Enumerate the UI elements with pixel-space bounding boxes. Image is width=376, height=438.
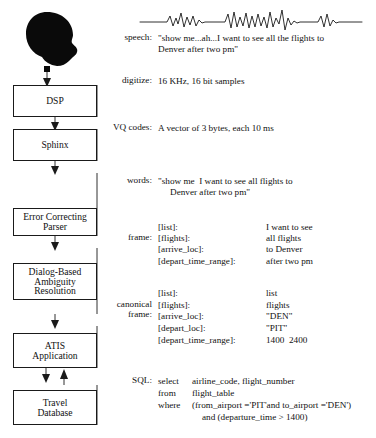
frame-value-2: to Denver [266,244,302,254]
canonical-key-0: [list]: [158,288,178,298]
canonical-value-3: "PIT" [266,323,287,333]
frame-value-1: all flights [266,233,301,243]
head-silhouette-icon [26,12,77,72]
sql-text-3: and (departure_time > 1400) [202,412,307,422]
atis-line-2: Application [30,351,79,361]
stage-value-digitize: 16 KHz, 16 bit samples [158,76,245,87]
figure-canvas: DSP Sphinx Error Correcting Parser Dialo… [0,0,376,438]
canonical-key-2: [arrive_loc]: [158,311,204,321]
frame-value-0: I want to see [266,222,313,232]
stage-value-words-line2: Denver after two pm" [170,187,250,198]
stage-value-speech-line1: "show me...ah...I want to see all the fl… [158,33,324,44]
frame-key-2: [arrive_loc]: [158,244,204,254]
module-box-sphinx[interactable]: Sphinx [13,129,97,161]
sql-text-2: (from_airport ='PIT'and to_airport ='DEN… [192,400,351,410]
sql-keyword-1: from [158,388,176,398]
module-label-parser: Error Correcting Parser [19,212,91,232]
module-box-error-correcting-parser[interactable]: Error Correcting Parser [13,208,97,236]
module-label-sphinx: Sphinx [39,140,70,150]
db-line-2: Database [35,408,74,418]
canonical-value-2: "DEN" [266,311,292,321]
stage-label-digitize: digitize: [72,76,152,86]
stage-label-vq-codes: VQ codes: [72,123,152,133]
sql-text-1: flight_table [192,388,234,398]
module-box-travel-database[interactable]: Travel Database [13,390,97,425]
canonical-frame-label-line2: frame: [72,310,152,320]
canonical-value-1: flights [266,300,289,310]
sql-keyword-2: where [158,400,180,410]
module-label-db: Travel Database [33,398,76,418]
sql-text-0: airline_code, flight_number [192,376,295,386]
canonical-value-0: list [266,288,277,298]
frame-label: frame: [72,233,152,243]
stage-value-speech-line2: Denver after two pm" [158,44,238,55]
stage-label-words: words: [72,176,152,186]
module-box-dsp[interactable]: DSP [13,85,97,117]
canonical-key-3: [depart_loc]: [158,323,205,333]
parser-line-2: Parser [21,222,89,232]
module-box-atis-application[interactable]: ATIS Application [13,333,97,368]
canonical-value-4: 1400 2400 [266,335,307,345]
module-box-dialog-ambiguity-resolution[interactable]: Dialog-Based Ambiguity Resolution [13,263,97,300]
frame-key-1: [flights]: [158,233,190,243]
speech-waveform-icon [140,10,362,30]
module-label-dsp: DSP [44,96,66,106]
stage-label-speech: speech: [72,33,152,43]
sql-keyword-0: select [158,376,179,386]
frame-value-3: after two pm [266,256,313,266]
dialog-line-3: Resolution [27,286,84,296]
module-label-atis: ATIS Application [28,341,81,361]
frame-key-3: [depart_time_range]: [158,256,236,266]
stage-value-vq-codes: A vector of 3 bytes, each 10 ms [158,123,274,134]
module-label-dialog: Dialog-Based Ambiguity Resolution [25,267,86,296]
sql-label: SQL: [72,376,152,386]
frame-key-0: [list]: [158,222,178,232]
canonical-key-1: [flights]: [158,300,190,310]
stage-value-words-line1: "show me I want to see all flights to [158,176,293,187]
canonical-key-4: [depart_time_range]: [158,335,236,345]
